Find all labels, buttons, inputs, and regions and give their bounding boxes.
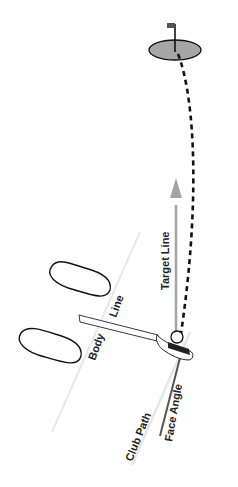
label-line: Line — [107, 293, 126, 318]
foot-top — [50, 262, 111, 296]
label-club-path: Club Path — [123, 410, 153, 462]
flag-icon — [167, 23, 175, 28]
foot-bottom — [19, 328, 81, 362]
golf-ball — [171, 331, 183, 343]
club-shaft — [79, 315, 158, 341]
target-arrow-head — [170, 178, 182, 198]
label-target-line: Target Line — [159, 232, 171, 290]
golf-diagram: Target Line Body Line Face Angle Club Pa… — [0, 0, 238, 487]
label-body: Body — [86, 331, 107, 362]
